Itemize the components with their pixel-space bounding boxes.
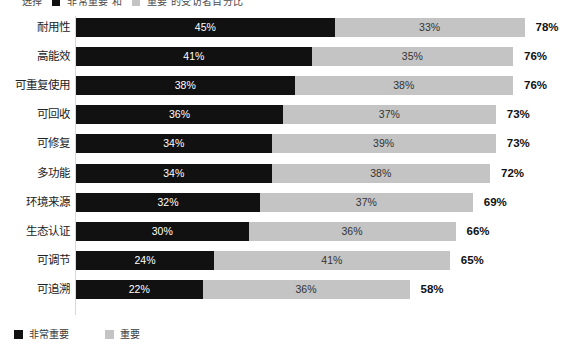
category-label: 生态认证: [0, 222, 70, 241]
row-total-label: 65%: [461, 251, 484, 270]
bar-segment-secondary[interactable]: 33%: [335, 18, 525, 37]
legend-label: 非常重要: [29, 329, 69, 340]
bar-segment-primary[interactable]: 24%: [76, 251, 214, 270]
chart-plot-area: 耐用性45%33%78%高能效41%35%76%可重复使用38%38%76%可回…: [0, 14, 573, 319]
chart-row: 高能效41%35%76%: [0, 47, 573, 66]
category-label: 高能效: [0, 47, 70, 66]
bar-segment-primary[interactable]: 30%: [76, 222, 249, 241]
chart-row: 可追溯22%36%58%: [0, 280, 573, 299]
legend-item-secondary[interactable]: 重要: [105, 326, 140, 344]
bar-segment-secondary[interactable]: 35%: [312, 47, 513, 66]
chart-row: 多功能34%38%72%: [0, 164, 573, 183]
stacked-bar[interactable]: 34%38%: [76, 164, 490, 183]
chart-legend: 非常重要重要: [0, 326, 573, 344]
row-total-label: 78%: [536, 18, 559, 37]
stacked-bar[interactable]: 36%37%: [76, 105, 496, 124]
clipped-title-text: 选择 非常重要 和 重要 的受访者百分比: [22, 0, 244, 8]
clipped-title-tail: 的受访者百分比: [171, 0, 244, 7]
bar-segment-primary[interactable]: 45%: [76, 18, 335, 37]
bar-segment-secondary[interactable]: 38%: [295, 76, 514, 95]
legend-swatch-primary-icon: [14, 330, 23, 339]
chart-row: 可回收36%37%73%: [0, 105, 573, 124]
row-total-label: 76%: [524, 76, 547, 95]
legend-swatch-secondary-icon: [105, 330, 114, 339]
stacked-bar[interactable]: 41%35%: [76, 47, 513, 66]
category-label: 可调节: [0, 251, 70, 270]
bar-segment-secondary[interactable]: 38%: [272, 164, 491, 183]
stacked-bar[interactable]: 30%36%: [76, 222, 456, 241]
clipped-secondary-label: 重要: [147, 0, 168, 7]
bar-segment-primary[interactable]: 34%: [76, 164, 272, 183]
bar-segment-primary[interactable]: 36%: [76, 105, 283, 124]
bar-segment-primary[interactable]: 22%: [76, 280, 203, 299]
row-total-label: 73%: [507, 105, 530, 124]
chart-row: 耐用性45%33%78%: [0, 18, 573, 37]
stacked-bar[interactable]: 38%38%: [76, 76, 513, 95]
row-total-label: 76%: [524, 47, 547, 66]
stacked-bar[interactable]: 45%33%: [76, 18, 525, 37]
bar-segment-secondary[interactable]: 41%: [214, 251, 450, 270]
chart-row: 环境来源32%37%69%: [0, 193, 573, 212]
category-label: 可修复: [0, 134, 70, 153]
category-label: 耐用性: [0, 18, 70, 37]
category-label: 环境来源: [0, 193, 70, 212]
bar-segment-secondary[interactable]: 37%: [260, 193, 473, 212]
bar-segment-secondary[interactable]: 36%: [249, 222, 456, 241]
chart-row: 可修复34%39%73%: [0, 134, 573, 153]
clipped-secondary-swatch: [132, 0, 140, 6]
bar-segment-secondary[interactable]: 36%: [203, 280, 410, 299]
row-total-label: 72%: [501, 164, 524, 183]
bar-segment-secondary[interactable]: 39%: [272, 134, 496, 153]
clipped-primary-swatch: [52, 0, 60, 6]
stacked-bar[interactable]: 32%37%: [76, 193, 473, 212]
row-total-label: 73%: [507, 134, 530, 153]
row-total-label: 58%: [421, 280, 444, 299]
bar-segment-secondary[interactable]: 37%: [283, 105, 496, 124]
category-label: 可追溯: [0, 280, 70, 299]
clipped-primary-label: 非常重要: [67, 0, 109, 7]
legend-label: 重要: [120, 329, 140, 340]
category-label: 可回收: [0, 105, 70, 124]
clipped-conjunction: 和: [112, 0, 122, 7]
bar-segment-primary[interactable]: 38%: [76, 76, 295, 95]
bar-segment-primary[interactable]: 41%: [76, 47, 312, 66]
stacked-bar[interactable]: 24%41%: [76, 251, 450, 270]
legend-item-primary[interactable]: 非常重要: [14, 326, 69, 344]
category-label: 可重复使用: [0, 76, 70, 95]
row-total-label: 66%: [467, 222, 490, 241]
category-label: 多功能: [0, 164, 70, 183]
clipped-title-sliver: 选择 非常重要 和 重要 的受访者百分比: [0, 0, 573, 8]
chart-row: 可调节24%41%65%: [0, 251, 573, 270]
clipped-title-lead: 选择: [22, 0, 43, 7]
chart-row: 生态认证30%36%66%: [0, 222, 573, 241]
row-total-label: 69%: [484, 193, 507, 212]
bar-segment-primary[interactable]: 34%: [76, 134, 272, 153]
chart-row: 可重复使用38%38%76%: [0, 76, 573, 95]
stacked-bar[interactable]: 22%36%: [76, 280, 410, 299]
bar-segment-primary[interactable]: 32%: [76, 193, 260, 212]
stacked-bar[interactable]: 34%39%: [76, 134, 496, 153]
